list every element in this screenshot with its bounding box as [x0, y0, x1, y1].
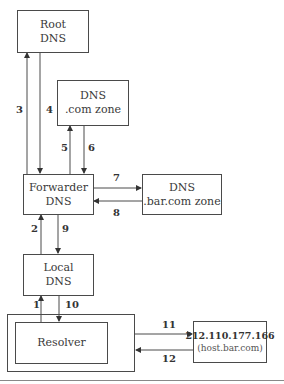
- host-node: 212.110.177.166 (host.bar.com): [193, 321, 267, 363]
- local-dns-line2: DNS: [46, 275, 72, 289]
- forwarder-dns-node: Forwarder DNS: [23, 174, 94, 215]
- barcom-zone-line2: .bar.com zone: [143, 195, 220, 209]
- host-ip: 212.110.177.166: [185, 329, 274, 342]
- resolver-label: Resolver: [37, 336, 86, 350]
- step-label-10: 10: [65, 299, 79, 310]
- local-dns-node: Local DNS: [23, 254, 94, 296]
- step-label-9: 9: [62, 223, 69, 234]
- step-label-1: 1: [33, 299, 40, 310]
- step-label-8: 8: [113, 207, 120, 218]
- root-dns-line2: DNS: [40, 32, 66, 46]
- resolver-node: Resolver: [15, 322, 108, 364]
- barcom-zone-line1: DNS: [169, 181, 195, 195]
- com-zone-line1: DNS: [80, 89, 106, 103]
- step-label-7: 7: [113, 172, 120, 183]
- step-label-6: 6: [88, 142, 95, 153]
- step-label-2: 2: [31, 223, 38, 234]
- step-label-12: 12: [162, 353, 176, 364]
- bottom-rule: [0, 380, 284, 381]
- root-dns-node: Root DNS: [17, 10, 89, 53]
- host-name: (host.bar.com): [197, 342, 263, 355]
- forwarder-line1: Forwarder: [29, 181, 88, 195]
- step-label-11: 11: [162, 319, 176, 330]
- com-zone-line2: .com zone: [65, 103, 121, 117]
- com-zone-node: DNS .com zone: [57, 80, 129, 126]
- step-label-4: 4: [46, 104, 53, 115]
- step-label-3: 3: [16, 104, 23, 115]
- barcom-zone-node: DNS .bar.com zone: [142, 174, 222, 215]
- root-dns-line1: Root: [40, 18, 66, 32]
- step-label-5: 5: [61, 142, 68, 153]
- forwarder-line2: DNS: [46, 195, 72, 209]
- local-dns-line1: Local: [43, 261, 73, 275]
